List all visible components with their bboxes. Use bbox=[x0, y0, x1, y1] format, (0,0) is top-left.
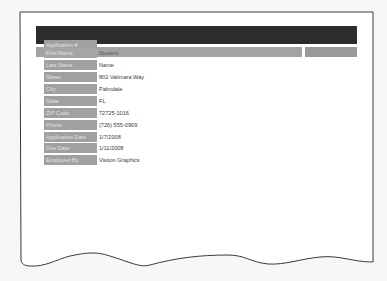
field-value-street: 802 Valimara Way bbox=[99, 72, 144, 82]
field-label-city: City bbox=[44, 84, 97, 94]
field-label-street: Street bbox=[44, 72, 97, 82]
field-value-first-name: Student bbox=[99, 48, 118, 58]
field-value-due-date: 1/11/2008 bbox=[99, 143, 123, 153]
field-value-zip-code: 72725-1016 bbox=[99, 108, 129, 118]
field-value-last-name: Name bbox=[99, 60, 114, 70]
field-value-employed-by: Vistion Graphics bbox=[99, 155, 140, 165]
field-label-employed-by: Employed By bbox=[44, 155, 97, 165]
field-label-state: State bbox=[44, 96, 97, 106]
field-label-last-name: Last Name bbox=[44, 60, 97, 70]
document-page: Application # First Name Student Last Na… bbox=[0, 0, 387, 281]
field-value-phone: (726) 555-0909 bbox=[99, 120, 137, 130]
field-label-phone: Phone bbox=[44, 120, 97, 130]
field-label-due-date: Due Date bbox=[44, 143, 97, 153]
field-value-application-date: 1/7/2008 bbox=[99, 132, 121, 142]
field-value-state: FL bbox=[99, 96, 106, 106]
field-label-application-date: Application Date bbox=[44, 132, 97, 142]
field-value-city: Palmdale bbox=[99, 84, 122, 94]
field-label-zip-code: ZIP Code bbox=[44, 108, 97, 118]
field-label-first-name: First Name bbox=[44, 48, 97, 58]
header-gray-bar-right bbox=[305, 47, 357, 57]
